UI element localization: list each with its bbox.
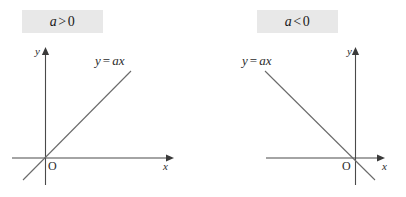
equation-lhs-negative: y bbox=[242, 53, 248, 68]
line-y-equals-ax-negative bbox=[265, 71, 375, 180]
y-axis-label-positive: y bbox=[35, 46, 40, 57]
panel-negative-slope: a<0 y x O y=ax bbox=[203, 0, 406, 197]
figure-canvas: a>0 y x O y=ax a<0 bbox=[0, 0, 406, 197]
equation-equals-positive: = bbox=[101, 53, 112, 68]
axes-and-line-positive bbox=[0, 0, 203, 197]
origin-label-negative: O bbox=[342, 160, 351, 172]
equation-equals-negative: = bbox=[248, 53, 259, 68]
equation-rhs-positive: ax bbox=[112, 53, 124, 68]
axes-and-line-negative bbox=[203, 0, 406, 197]
origin-label-positive: O bbox=[48, 160, 57, 172]
equation-lhs-positive: y bbox=[95, 53, 101, 68]
panel-positive-slope: a>0 y x O y=ax bbox=[0, 0, 203, 197]
line-y-equals-ax-positive bbox=[23, 71, 131, 180]
y-axis-arrowhead-negative bbox=[352, 47, 359, 55]
x-axis-label-positive: x bbox=[163, 161, 168, 172]
equation-label-negative: y=ax bbox=[242, 54, 271, 67]
equation-rhs-negative: ax bbox=[259, 53, 271, 68]
equation-label-positive: y=ax bbox=[95, 54, 124, 67]
x-axis-label-negative: x bbox=[382, 161, 387, 172]
y-axis-label-negative: y bbox=[347, 46, 352, 57]
y-axis-arrowhead-positive bbox=[42, 47, 49, 55]
